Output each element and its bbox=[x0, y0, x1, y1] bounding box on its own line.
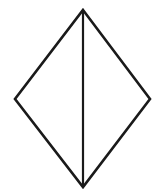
rhombus-diagram bbox=[0, 0, 158, 192]
figure-canvas bbox=[0, 0, 158, 192]
